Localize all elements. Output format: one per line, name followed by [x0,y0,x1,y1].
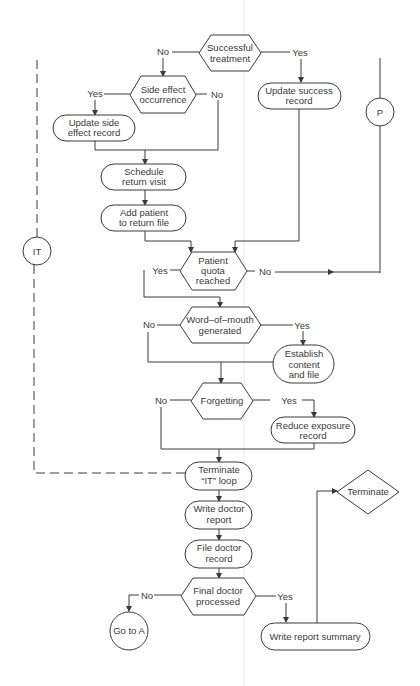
edge-label-no: No [141,590,153,601]
node-label: processed [196,596,240,607]
process-reduce-exposure-record: Reduce exposure record [271,417,355,443]
terminal-terminate: Terminate [337,470,399,514]
process-write-report-summary: Write report summary [261,623,370,650]
node-label: Terminate [198,464,240,475]
process-terminate-it-loop: Terminate “IT” loop [185,462,252,490]
node-label: Write report summary [269,631,360,642]
edge-label-yes: Yes [152,265,168,276]
process-schedule-return-visit: Schedule return visit [101,164,186,190]
edge-label-no: No [211,89,223,100]
node-label: treatment [210,53,250,64]
node-label: occurrence [140,94,187,105]
node-label: and file [289,369,320,380]
edge-label-yes: Yes [87,88,103,99]
edge-label-yes: Yes [277,591,293,602]
process-update-side-effect-record: Update side effect record [53,115,135,141]
edge-label-no: No [157,46,169,57]
node-label: Go to A [113,625,145,636]
node-label: to return file [119,217,169,228]
node-label: Word–of–mouth [186,314,253,325]
process-write-doctor-report: Write doctor report [185,501,252,529]
edge-label-no: No [259,266,271,277]
process-update-success-record: Update success record [258,83,341,109]
decision-final-doctor-processed: Final doctor processed [181,578,256,615]
edge-label-no: No [155,395,167,406]
decision-successful-treatment: Successful treatment [199,35,261,71]
node-label: IT [33,246,42,257]
node-label: File doctor [197,542,241,553]
node-label: generated [199,325,242,336]
node-label: Terminate [347,486,389,497]
node-label: report [207,514,232,525]
node-label: P [377,107,383,118]
connector-it: IT [23,237,51,265]
process-file-doctor-record: File doctor record [185,540,252,568]
connector-p: P [366,98,394,126]
node-label: “IT” loop [201,475,236,486]
node-label: record [206,553,233,564]
process-add-patient-to-return-file: Add patient to return file [101,205,186,231]
node-label: Forgetting [201,395,244,406]
connector-go-to-a: Go to A [110,612,148,650]
decision-word-of-mouth-generated: Word–of–mouth generated [180,307,261,343]
node-label: Successful [207,42,253,53]
node-label: return visit [122,176,166,187]
edge-label-no: No [143,319,155,330]
decision-forgetting: Forgetting [191,383,253,419]
decision-side-effect-occurrence: Side effect occurrence [130,76,196,113]
node-label: effect record [68,127,121,138]
node-label: record [300,430,327,441]
edge-label-yes: Yes [292,47,308,58]
process-establish-content-and-file: Establish content and file [273,345,334,383]
node-label: record [286,95,313,106]
node-label: Establish [285,348,324,359]
flowchart-canvas: Successful treatment No Yes Side effect … [0,0,420,686]
edge-label-yes: Yes [281,395,297,406]
decision-patient-quota-reached: Patient quota reached [180,252,247,290]
edge-label-yes: Yes [294,320,310,331]
node-label: Write doctor [193,503,244,514]
node-label: Final doctor [193,585,243,596]
node-label: reached [196,275,230,286]
